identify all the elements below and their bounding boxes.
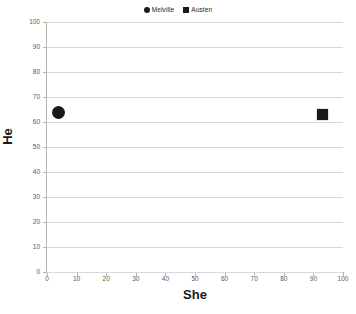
y-tick-mark [43,172,46,173]
x-tick-label: 20 [94,276,118,283]
x-tick-label: 40 [153,276,177,283]
gridline-horizontal [47,197,343,198]
x-tick-mark [313,273,314,276]
x-tick-mark [77,273,78,276]
legend-label-melville: Melville [152,7,174,14]
gridline-horizontal [47,97,343,98]
legend-item-austen[interactable]: Austen [183,7,212,14]
gridline-horizontal [47,47,343,48]
gridline-horizontal [47,72,343,73]
x-tick-label: 90 [301,276,325,283]
y-tick-mark [43,72,46,73]
x-tick-mark [136,273,137,276]
y-tick-mark [43,22,46,23]
x-tick-mark [225,273,226,276]
circle-marker-icon [144,7,150,13]
y-tick-label: 0 [18,269,40,276]
scatter-chart: Melville Austen 0102030405060708090100 0… [0,0,356,314]
data-point-austen[interactable] [316,108,329,121]
x-tick-mark [343,273,344,276]
x-tick-mark [47,273,48,276]
y-tick-mark [43,122,46,123]
y-tick-mark [43,272,46,273]
gridline-horizontal [47,122,343,123]
gridline-horizontal [47,147,343,148]
y-tick-label: 50 [18,144,40,151]
gridline-horizontal [47,22,343,23]
y-tick-label: 80 [18,69,40,76]
x-tick-mark [165,273,166,276]
y-tick-mark [43,247,46,248]
legend-label-austen: Austen [191,7,212,14]
y-tick-label: 70 [18,94,40,101]
y-axis-title: He [1,115,14,159]
y-tick-mark [43,222,46,223]
x-tick-mark [195,273,196,276]
legend-item-melville[interactable]: Melville [144,7,174,14]
x-tick-mark [254,273,255,276]
chart-legend: Melville Austen [0,2,356,18]
y-tick-mark [43,197,46,198]
x-tick-label: 0 [35,276,59,283]
x-tick-mark [106,273,107,276]
plot-area [47,22,343,272]
y-tick-label: 100 [18,19,40,26]
x-tick-label: 70 [242,276,266,283]
y-tick-label: 40 [18,169,40,176]
y-tick-label: 60 [18,119,40,126]
y-tick-label: 30 [18,194,40,201]
x-tick-label: 50 [183,276,207,283]
data-point-melville[interactable] [52,106,65,119]
x-tick-label: 60 [213,276,237,283]
y-tick-label: 10 [18,244,40,251]
y-tick-label: 20 [18,219,40,226]
x-tick-label: 100 [331,276,355,283]
x-axis-title: She [47,288,343,301]
x-tick-label: 80 [272,276,296,283]
y-tick-mark [43,97,46,98]
gridline-horizontal [47,172,343,173]
y-tick-mark [43,47,46,48]
y-tick-label: 90 [18,44,40,51]
x-tick-mark [284,273,285,276]
x-tick-label: 30 [124,276,148,283]
gridline-horizontal [47,222,343,223]
x-tick-label: 10 [65,276,89,283]
square-marker-icon [183,7,189,13]
gridline-horizontal [47,247,343,248]
y-tick-mark [43,147,46,148]
